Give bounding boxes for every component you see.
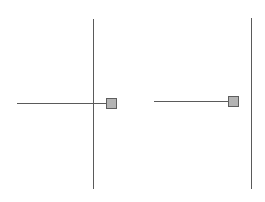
left-horizontal-line (17, 103, 106, 104)
right-vertical-line (251, 18, 252, 189)
diagram-canvas (0, 0, 265, 202)
right-horizontal-line (154, 101, 228, 102)
right-square-handle[interactable] (228, 96, 239, 107)
left-square-handle[interactable] (106, 98, 117, 109)
left-vertical-line (93, 19, 94, 189)
